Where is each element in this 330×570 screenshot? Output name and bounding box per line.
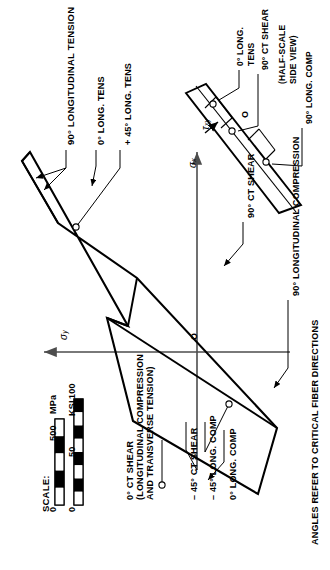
inset-annotation-90-ct-shear: 90° CT SHEAR [261,9,271,70]
annotation-0-ct-shear-sub1: (LONGITUDINAL COMPRESSION [135,354,145,500]
envelope-chords [107,278,277,428]
origin-label: O [189,333,199,340]
figure-footnote: ANGLES REFER TO CRITICAL FIBER DIRECTION… [310,320,320,545]
annotation-0-ct-shear: 0° CT SHEAR [125,441,135,500]
annotation-0-long-tens: 0° LONG. TENS [96,76,106,145]
inset-annotation-0-long-sub: TENS [247,43,257,66]
annotation-minus45-ct-shear: – 45° CT SHEAR [189,428,199,500]
inset-origin-label: O [240,111,250,118]
annotation-plus45-long-tens: + 45° LONG. TENS [123,63,133,145]
annotation-90-long-tension: 90° LONGITUDINAL TENSION [66,7,77,145]
annotation-0-long-comp: 0° LONG. COMP [228,428,238,500]
inset-caption-line1: (HALF-SCALE [278,25,288,84]
tau-xy-axis-label: τxy [200,119,212,130]
scale-ksi-tick-50: 50 [67,447,77,457]
sigma-y-axis-label: σy [58,330,70,340]
figure-canvas: 90° LONGITUDINAL TENSION 0° LONG. TENS +… [0,0,330,570]
scale-mpa-unit: MPa [48,395,58,414]
sigma-x-axis-label: σx [187,158,199,168]
scale-ksi-tick-0: 0 [67,507,77,512]
scale-mpa-tick-0: 0 [48,507,58,512]
inset-annotation-90-long-comp: 90° LONG. COMP [305,51,315,124]
annotation-90-long-compression: 90° LONGITUDINAL COMPRESSION [291,136,301,296]
scale-ksi-tick-100: 100 [67,383,77,399]
envelope-notch [22,152,58,223]
scale-ksi-unit: KSI [67,400,77,416]
scale-mpa-tick-500: 500 [48,425,58,441]
annotation-minus45-long-comp: – 45° LONG. COMP [208,415,218,500]
inset-annotation-0-long: 0° LONG. [236,27,246,66]
inset-caption-line2: SIDE VIEW) [289,35,299,84]
annotation-0-ct-shear-sub2: AND TRANSVERSE TENSION) [145,366,155,500]
inset-side-view [186,70,302,213]
annotation-90-ct-shear: 90° CT SHEAR [246,153,256,218]
